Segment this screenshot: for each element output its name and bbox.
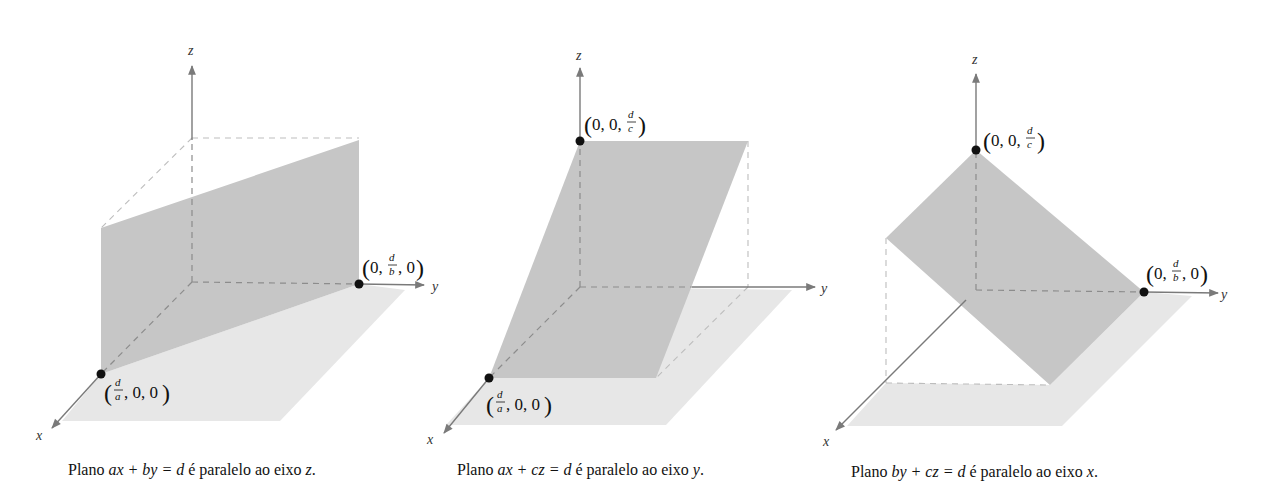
svg-text:): ) <box>162 380 170 406</box>
svg-text:c: c <box>628 122 633 134</box>
svg-text:): ) <box>544 392 552 418</box>
y-axis <box>359 284 424 285</box>
svg-text:(: ( <box>362 255 370 281</box>
svg-text:0,: 0, <box>370 258 383 277</box>
svg-text:, 0, 0: , 0, 0 <box>124 383 158 402</box>
y-axis <box>1144 292 1218 293</box>
caption-lead: Plano <box>851 463 891 480</box>
svg-text:d: d <box>628 108 634 120</box>
svg-text:d: d <box>115 376 121 388</box>
caption-lead: Plano <box>68 461 108 478</box>
z-axis-label: z <box>575 48 582 63</box>
caption-equation: by + cz = d <box>891 463 965 480</box>
svg-text:b: b <box>1173 271 1179 283</box>
svg-text:): ) <box>1037 128 1045 154</box>
svg-text:(: ( <box>1146 261 1154 287</box>
panel-plane-parallel-z: z y x ( d a , 0, 0 ) ( 0, d b , 0 ) <box>35 43 439 443</box>
svg-text:(: ( <box>104 380 112 406</box>
svg-text:0, 0,: 0, 0, <box>592 115 622 134</box>
caption-middle: é paralelo ao eixo <box>184 461 305 478</box>
svg-text:b: b <box>389 265 395 277</box>
svg-text:a: a <box>497 402 503 414</box>
x-axis-label: x <box>822 434 830 449</box>
svg-text:d: d <box>389 251 395 263</box>
caption-axis: y <box>693 461 700 478</box>
caption-axis: x <box>1087 463 1094 480</box>
svg-text:): ) <box>1200 261 1208 287</box>
svg-text:d: d <box>1027 124 1033 136</box>
caption-end: . <box>1094 463 1098 480</box>
caption-plane-parallel-z: Plano ax + by = d é paralelo ao eixo z. <box>68 461 316 479</box>
x-axis-label: x <box>35 428 43 443</box>
svg-text:d: d <box>1173 257 1179 269</box>
caption-lead: Plano <box>457 461 497 478</box>
caption-plane-parallel-x: Plano by + cz = d é paralelo ao eixo x. <box>851 463 1098 481</box>
panel-plane-parallel-y: z y x ( 0, 0, d c ) ( d a , 0, 0 ) <box>426 48 828 447</box>
coord-label-d-over-c: ( 0, 0, d c ) <box>584 108 646 138</box>
figure-canvas: z y x ( d a , 0, 0 ) ( 0, d b , 0 ) <box>0 0 1261 493</box>
caption-middle: é paralelo ao eixo <box>571 461 692 478</box>
coord-label-d-over-c: ( 0, 0, d c ) <box>983 124 1045 154</box>
svg-text:, 0: , 0 <box>1182 264 1199 283</box>
y-axis-label: y <box>819 281 828 296</box>
svg-text:, 0: , 0 <box>398 258 415 277</box>
caption-end: . <box>700 461 704 478</box>
y-axis-label: y <box>1219 287 1228 302</box>
svg-text:c: c <box>1027 138 1032 150</box>
x-axis-label: x <box>426 432 434 447</box>
svg-text:): ) <box>638 112 646 138</box>
y-axis-label: y <box>430 279 439 294</box>
z-axis-label: z <box>187 43 194 58</box>
svg-text:0, 0,: 0, 0, <box>991 131 1021 150</box>
svg-text:(: ( <box>486 392 494 418</box>
coord-label-d-over-b: ( 0, d b , 0 ) <box>362 251 424 281</box>
svg-text:, 0, 0: , 0, 0 <box>506 395 540 414</box>
svg-text:(: ( <box>983 128 991 154</box>
caption-equation: ax + by = d <box>108 461 184 478</box>
intercept-point-z <box>972 146 981 155</box>
coord-label-d-over-b: ( 0, d b , 0 ) <box>1146 257 1208 287</box>
svg-text:a: a <box>115 390 121 402</box>
svg-text:): ) <box>416 255 424 281</box>
intercept-point-x <box>97 370 106 379</box>
svg-text:d: d <box>497 388 503 400</box>
svg-text:(: ( <box>584 112 592 138</box>
svg-text:0,: 0, <box>1154 264 1167 283</box>
intercept-point-y <box>1140 288 1149 297</box>
caption-end: . <box>312 461 316 478</box>
z-axis-label: z <box>971 52 978 67</box>
intercept-point-x <box>485 374 494 383</box>
caption-middle: é paralelo ao eixo <box>965 463 1086 480</box>
caption-equation: ax + cz = d <box>497 461 571 478</box>
caption-plane-parallel-y: Plano ax + cz = d é paralelo ao eixo y. <box>457 461 704 479</box>
panel-plane-parallel-x: z y x ( 0, 0, d c ) ( 0, d b , 0 ) <box>822 52 1228 449</box>
